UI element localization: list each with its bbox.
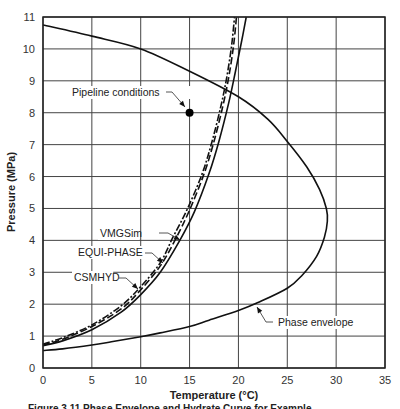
y-tick-label: 6 <box>29 171 35 183</box>
y-tick-label: 8 <box>29 107 35 119</box>
y-tick-label: 9 <box>29 75 35 87</box>
y-tick-labels: 01234567891011 <box>23 11 35 374</box>
phase-envelope-curve <box>43 25 328 350</box>
annotation-label: EQUI-PHASE <box>78 246 143 258</box>
y-tick-label: 4 <box>29 234 35 246</box>
figure-caption: Figure 3.11 Phase Envelope and Hydrate C… <box>0 401 400 409</box>
x-tick-label: 15 <box>183 374 195 386</box>
x-tick-label: 5 <box>89 374 95 386</box>
x-tick-label: 20 <box>232 374 244 386</box>
pipeline-conditions-marker <box>186 109 194 117</box>
y-tick-label: 1 <box>29 330 35 342</box>
arrowhead-icon <box>174 235 180 240</box>
y-axis-label: Pressure (MPa) <box>5 152 17 232</box>
annotation-csmhyd: CSMHYD <box>72 271 138 289</box>
annotation-pipeline-conditions: Pipeline conditions <box>70 86 192 107</box>
y-tick-label: 10 <box>23 43 35 55</box>
y-tick-label: 11 <box>24 11 35 23</box>
x-tick-label: 0 <box>40 374 46 386</box>
annotation-label: Pipeline conditions <box>72 86 160 98</box>
x-tick-label: 25 <box>281 374 293 386</box>
arrowhead-icon <box>257 307 262 313</box>
x-axis-label: Temperature (°C) <box>170 389 259 401</box>
y-tick-label: 0 <box>29 362 35 374</box>
csmhyd-curve <box>43 17 246 346</box>
curves <box>43 17 328 350</box>
x-tick-label: 30 <box>330 374 342 386</box>
y-tick-label: 5 <box>29 202 35 214</box>
x-tick-label: 10 <box>135 374 147 386</box>
annotation-phase-envelope: Phase envelope <box>257 307 367 329</box>
x-tick-labels: 05101520253035 <box>40 374 391 386</box>
annotation-label: Phase envelope <box>278 316 353 328</box>
y-tick-label: 3 <box>29 266 35 278</box>
x-tick-label: 35 <box>379 374 391 386</box>
annotation-equi-phase: EQUI-PHASE <box>76 246 163 263</box>
hydrate-phase-chart: 05101520253035 01234567891011 Temperatur… <box>0 0 400 409</box>
annotation-vmgsim: VMGSim <box>98 227 180 240</box>
y-tick-label: 2 <box>29 298 35 310</box>
annotation-label: CSMHYD <box>74 271 120 283</box>
y-tick-label: 7 <box>29 139 35 151</box>
annotation-label: VMGSim <box>100 227 142 239</box>
